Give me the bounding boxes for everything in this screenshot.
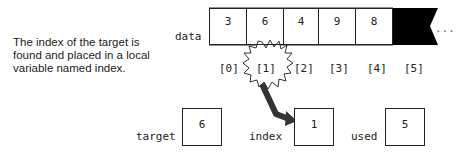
cell-value: 4 bbox=[298, 15, 305, 44]
used-box: 5 bbox=[385, 108, 425, 146]
array-label: data bbox=[175, 30, 202, 43]
target-box: 6 bbox=[182, 108, 222, 146]
array-cell: 4 bbox=[283, 8, 318, 45]
cell-value: 8 bbox=[371, 15, 378, 44]
arrow-to-index bbox=[262, 84, 289, 119]
target-label: target bbox=[136, 130, 176, 143]
cell-value: 3 bbox=[225, 15, 232, 44]
cell-value: 9 bbox=[334, 15, 341, 44]
used-label: used bbox=[351, 130, 378, 143]
target-value: 6 bbox=[199, 118, 206, 145]
array-cell: 9 bbox=[318, 8, 355, 45]
array-cell: 3 bbox=[209, 8, 246, 45]
used-value: 5 bbox=[402, 118, 409, 145]
index-box: 1 bbox=[294, 108, 334, 146]
array-cell: 8 bbox=[355, 8, 393, 45]
index-label: [5] bbox=[404, 62, 424, 75]
index-label: [1] bbox=[256, 62, 276, 75]
index-label: [4] bbox=[367, 62, 387, 75]
continuation-ellipsis: ... bbox=[435, 22, 455, 35]
unused-array-region bbox=[393, 8, 438, 45]
index-var-label: index bbox=[249, 130, 282, 143]
cell-value: 6 bbox=[262, 15, 269, 44]
index-label: [3] bbox=[329, 62, 349, 75]
array-cell: 6 bbox=[246, 8, 283, 45]
index-value: 1 bbox=[311, 118, 318, 145]
index-label: [2] bbox=[294, 62, 314, 75]
index-label: [0] bbox=[219, 62, 239, 75]
